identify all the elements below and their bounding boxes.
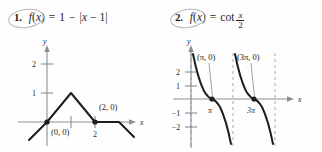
fraction-denominator: 2: [238, 21, 243, 30]
leader-line-three-pi: [251, 63, 255, 97]
x-axis-label-2: x: [297, 95, 302, 104]
graph-1-svg: y x 1 2 2 (0, 0) (2, 0): [0, 36, 161, 152]
point-label-two-zero: (2, 0): [99, 102, 118, 112]
y-axis-label-2: y: [186, 37, 191, 46]
point-marker-origin: [44, 119, 49, 124]
abs-variable: x: [82, 11, 87, 23]
problem-2: 2. f(x) = cot x 2: [161, 0, 322, 152]
point-marker-two-zero: [92, 119, 97, 124]
abs-bar-close: |: [105, 11, 107, 23]
equals-sign: =: [49, 11, 56, 23]
leader-line-pi: [209, 63, 213, 97]
y-tick-label-2-pos1: 1: [176, 82, 180, 91]
point-marker-three-pi-zero: [251, 96, 256, 101]
equals-sign-2: =: [210, 11, 217, 23]
paren-close-2: ): [202, 11, 206, 23]
abs-minus-sign: −: [90, 11, 97, 23]
problem-2-graph: y x 2 1 −1 −2 π 3π (π, 0) (3π, 0): [161, 36, 322, 152]
y-axis-arrow-1: [44, 45, 49, 52]
curve-absolute-value: [29, 93, 134, 140]
problem-1-equation: f(x) = 1 − |x−1|: [29, 11, 108, 23]
point-label-three-pi-zero: (3π, 0): [237, 52, 260, 62]
x-tick-label-three-pi: 3π: [246, 106, 256, 115]
fraction-x-over-two: x 2: [236, 11, 244, 30]
x-axis-arrow-2: [287, 96, 294, 101]
problem-2-heading: 2. f(x) = cot x 2: [175, 11, 244, 31]
y-tick-label-1-two: 2: [32, 60, 36, 69]
x-axis-arrow-1: [129, 119, 136, 124]
problem-1-heading: 1. f(x) = 1 − |x−1|: [14, 11, 108, 31]
constant-one: 1: [59, 11, 65, 23]
x-tick-label-1-two: 2: [93, 130, 97, 139]
problem-2-equation: f(x) = cot x 2: [190, 11, 245, 33]
minus-sign: −: [69, 11, 76, 23]
point-label-origin: (0, 0): [51, 127, 70, 137]
x-tick-label-pi: π: [208, 106, 213, 115]
cotangent-operator: cot: [220, 11, 234, 23]
problem-1: 1. f(x) = 1 − |x−1|: [0, 0, 161, 152]
y-axis-label-1: y: [42, 37, 47, 46]
x-axis-label-1: x: [139, 118, 144, 127]
y-tick-label-2-neg1: −1: [172, 109, 181, 118]
problem-1-number: 1.: [14, 11, 22, 23]
y-tick-label-2-pos2: 2: [176, 68, 180, 77]
problem-1-graph: y x 1 2 2 (0, 0) (2, 0): [0, 36, 161, 152]
paren-close: ): [41, 11, 45, 23]
y-axis-arrow-2: [188, 45, 193, 52]
textbook-page: 1. f(x) = 1 − |x−1|: [0, 0, 322, 152]
problem-2-number: 2.: [175, 11, 183, 23]
y-tick-label-1-one: 1: [32, 89, 36, 98]
y-tick-label-2-neg2: −2: [172, 123, 181, 132]
point-marker-pi-zero: [209, 96, 214, 101]
point-label-pi-zero: (π, 0): [197, 52, 216, 62]
graph-2-svg: y x 2 1 −1 −2 π 3π (π, 0) (3π, 0): [161, 36, 322, 152]
